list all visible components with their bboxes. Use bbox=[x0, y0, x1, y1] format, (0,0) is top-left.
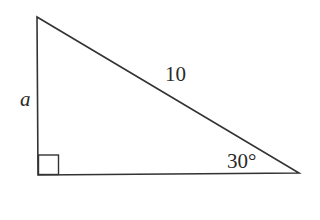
leg-label-a: a bbox=[20, 89, 31, 110]
hypotenuse-label: 10 bbox=[165, 64, 186, 85]
right-angle-marker bbox=[39, 155, 59, 175]
right-triangle bbox=[0, 0, 320, 220]
diagram-canvas: a 10 30° bbox=[0, 0, 320, 220]
angle-label: 30° bbox=[227, 151, 256, 172]
triangle-outline bbox=[37, 17, 299, 175]
